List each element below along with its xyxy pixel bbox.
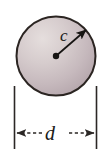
center-point-dot xyxy=(53,53,59,59)
figure-container: c d xyxy=(0,0,108,154)
diameter-label-d: d xyxy=(45,122,56,144)
radius-label-c: c xyxy=(60,26,68,45)
geometry-diagram: c d xyxy=(0,0,108,154)
